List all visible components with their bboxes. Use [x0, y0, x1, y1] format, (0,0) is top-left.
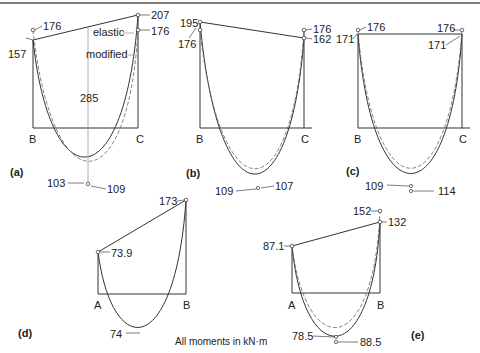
value-label: 87.1: [263, 240, 284, 252]
elastic-curve: [200, 22, 304, 174]
support-label: B: [29, 133, 36, 145]
moment-diagrams-figure: 176 157 207 176 elastic modified 285 103…: [0, 0, 480, 353]
value-label: 176: [367, 21, 385, 33]
support-label: B: [183, 299, 190, 311]
value-label: 88.5: [360, 336, 381, 348]
span-moment-label: 285: [80, 92, 98, 104]
value-label: 176: [437, 22, 455, 34]
modified-curve: [200, 30, 304, 169]
value-label: 176: [151, 25, 169, 37]
value-label: 103: [47, 177, 65, 189]
value-label: 109: [107, 183, 125, 195]
value-label: 171: [428, 39, 446, 51]
units-note: All moments in kN·m: [175, 336, 267, 347]
support-label: B: [377, 299, 384, 311]
modified-label: modified: [86, 48, 128, 60]
support-label: A: [288, 299, 296, 311]
panel-a: 176 157 207 176 elastic modified 285 103…: [8, 9, 169, 195]
panel-c: 176 171 176 171 109 114 B C (c): [336, 21, 470, 197]
value-label: 171: [336, 33, 354, 45]
value-label: 207: [151, 9, 169, 21]
support-label: B: [196, 133, 203, 145]
panel-e: 152 132 87.1 78.5 88.5 A B (e): [263, 205, 425, 348]
value-label: 152: [353, 205, 371, 217]
panel-label: (d): [18, 327, 32, 339]
value-label: 162: [313, 33, 331, 45]
value-label: 109: [365, 180, 383, 192]
elastic-curve: [358, 34, 462, 174]
support-label: C: [301, 133, 309, 145]
value-label: 157: [8, 48, 26, 60]
modified-curve: [292, 211, 380, 328]
panel-label: (a): [10, 166, 24, 178]
value-label: 176: [43, 20, 61, 32]
value-label: 78.5: [292, 330, 313, 342]
value-label: 109: [215, 185, 233, 197]
panel-label: (c): [346, 165, 360, 177]
elastic-label: elastic: [93, 26, 125, 38]
panel-label: (b): [186, 167, 200, 179]
support-label: B: [354, 133, 361, 145]
value-label: 73.9: [111, 247, 132, 259]
panel-d: 173 73.9 74 A B (d): [18, 195, 190, 340]
value-label: 114: [438, 185, 456, 197]
value-label: 107: [275, 180, 293, 192]
value-label: 195: [180, 17, 198, 29]
value-label: 74: [110, 328, 122, 340]
support-label: C: [459, 133, 467, 145]
support-label: A: [94, 299, 102, 311]
panel-b: 195 176 176 162 109 107 B C (b): [178, 17, 331, 197]
value-label: 173: [159, 195, 177, 207]
elastic-curve: [292, 222, 380, 336]
moment-curve: [98, 200, 186, 327]
support-label: C: [136, 133, 144, 145]
value-label: 132: [388, 216, 406, 228]
panel-label: (e): [411, 329, 425, 341]
value-label: 176: [178, 38, 196, 50]
modified-curve: [358, 31, 462, 168]
